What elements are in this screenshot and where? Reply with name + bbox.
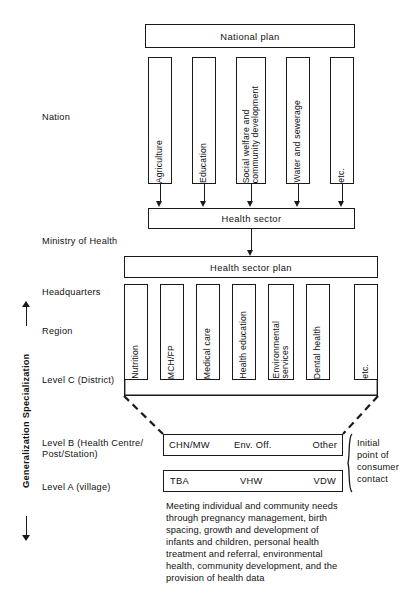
consumer-contact-note: Initial point of consumer contact xyxy=(357,437,415,486)
footer-paragraph: Meeting individual and community needs t… xyxy=(166,500,366,585)
diagram-canvas: Generalization Specialization Nation Min… xyxy=(0,0,418,593)
